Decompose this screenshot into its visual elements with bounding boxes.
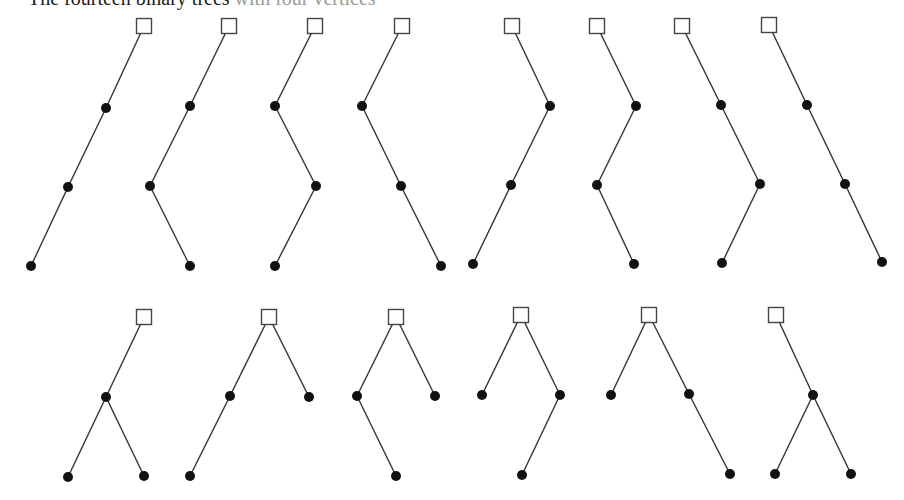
tree-edge — [357, 317, 396, 396]
vertex-dot-icon — [396, 181, 406, 191]
tree-edge — [482, 315, 521, 395]
root-square-icon — [395, 19, 410, 34]
binary-tree-2 — [145, 19, 237, 272]
vertex-dot-icon — [26, 261, 36, 271]
root-square-icon — [642, 308, 657, 323]
binary-tree-9 — [63, 310, 152, 483]
tree-edge — [597, 106, 636, 185]
tree-edge — [31, 187, 68, 266]
binary-tree-1 — [26, 19, 152, 272]
tree-edge — [769, 25, 807, 105]
root-square-icon — [222, 19, 237, 34]
binary-tree-4 — [357, 19, 446, 272]
tree-edge — [106, 317, 144, 397]
root-square-icon — [137, 19, 152, 34]
binary-trees-diagram — [0, 0, 904, 500]
vertex-dot-icon — [225, 391, 235, 401]
tree-edge — [845, 184, 882, 262]
root-square-icon — [514, 308, 529, 323]
root-square-icon — [262, 310, 277, 325]
vertex-dot-icon — [629, 259, 639, 269]
tree-edge — [649, 315, 689, 394]
vertex-dot-icon — [725, 469, 735, 479]
tree-edge — [597, 185, 634, 264]
tree-edge — [682, 26, 721, 105]
vertex-dot-icon — [802, 100, 812, 110]
tree-edge — [511, 106, 550, 185]
binary-tree-11 — [352, 310, 440, 482]
vertex-dot-icon — [846, 469, 856, 479]
tree-edge — [269, 317, 309, 397]
tree-edge — [150, 106, 190, 186]
tree-edge — [512, 26, 550, 106]
vertex-dot-icon — [352, 391, 362, 401]
tree-edge — [611, 315, 649, 395]
vertex-dot-icon — [63, 472, 73, 482]
vertex-dot-icon — [468, 259, 478, 269]
vertex-dot-icon — [506, 180, 516, 190]
vertex-dot-icon — [139, 471, 149, 481]
vertex-dot-icon — [755, 179, 765, 189]
vertex-dot-icon — [592, 180, 602, 190]
binary-tree-10 — [185, 310, 314, 482]
tree-edge — [275, 186, 316, 266]
binary-tree-14 — [769, 308, 857, 480]
tree-edge — [106, 26, 144, 108]
tree-edge — [106, 397, 144, 476]
tree-edge — [190, 26, 229, 106]
binary-tree-12 — [477, 308, 565, 481]
tree-edge — [230, 317, 269, 396]
vertex-dot-icon — [840, 179, 850, 189]
tree-edge — [401, 186, 441, 266]
tree-edge — [190, 396, 230, 476]
vertex-dot-icon — [606, 390, 616, 400]
binary-tree-3 — [270, 19, 323, 272]
tree-edge — [68, 397, 106, 477]
root-square-icon — [675, 19, 690, 34]
root-square-icon — [769, 308, 784, 323]
tree-edge — [357, 396, 396, 476]
vertex-dot-icon — [185, 101, 195, 111]
tree-edge — [775, 395, 813, 474]
root-square-icon — [590, 19, 605, 34]
binary-tree-6 — [590, 19, 642, 270]
tree-edge — [597, 26, 636, 106]
tree-edge — [522, 395, 560, 475]
vertex-dot-icon — [877, 257, 887, 267]
tree-edge — [721, 105, 760, 184]
root-square-icon — [389, 310, 404, 325]
vertex-dot-icon — [304, 392, 314, 402]
root-square-icon — [762, 18, 777, 33]
tree-edge — [807, 105, 845, 184]
vertex-dot-icon — [185, 471, 195, 481]
vertex-dot-icon — [770, 469, 780, 479]
tree-edge — [689, 394, 730, 474]
vertex-dot-icon — [477, 390, 487, 400]
tree-edge — [362, 26, 402, 106]
vertex-dot-icon — [517, 470, 527, 480]
binary-tree-5 — [468, 19, 555, 270]
vertex-dot-icon — [717, 258, 727, 268]
vertex-dot-icon — [101, 392, 111, 402]
tree-edge — [275, 26, 315, 106]
vertex-dot-icon — [270, 101, 280, 111]
vertex-dot-icon — [430, 391, 440, 401]
vertex-dot-icon — [311, 181, 321, 191]
vertex-dot-icon — [631, 101, 641, 111]
vertex-dot-icon — [391, 471, 401, 481]
tree-edge — [473, 185, 511, 264]
vertex-dot-icon — [808, 390, 818, 400]
binary-tree-8 — [762, 18, 888, 268]
vertex-dot-icon — [270, 261, 280, 271]
root-square-icon — [505, 19, 520, 34]
vertex-dot-icon — [545, 101, 555, 111]
vertex-dot-icon — [684, 389, 694, 399]
vertex-dot-icon — [716, 100, 726, 110]
tree-edge — [275, 106, 316, 186]
tree-edge — [68, 108, 106, 187]
vertex-dot-icon — [101, 103, 111, 113]
root-square-icon — [308, 19, 323, 34]
tree-edge — [521, 315, 560, 395]
tree-edge — [396, 317, 435, 396]
tree-edge — [722, 184, 760, 263]
